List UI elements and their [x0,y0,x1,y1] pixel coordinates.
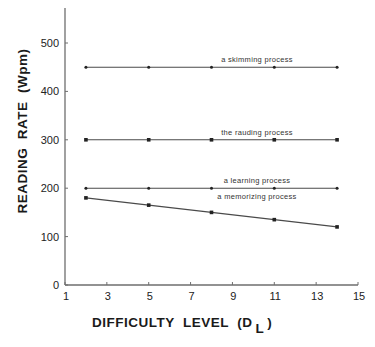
x-tick-label: 5 [147,290,153,302]
square-marker-icon [335,225,339,229]
dot-marker-icon [210,66,213,69]
dot-marker-icon [147,66,150,69]
series-the-rauding-process: the rauding process [84,128,339,142]
series-a-skimming-process: a skimming process [84,55,338,68]
x-axis: 13579111315 [63,282,365,302]
square-marker-icon [147,138,151,142]
dot-marker-icon [273,187,276,190]
chart-canvas: 0100200300400500 13579111315 a skimming … [0,0,375,347]
dot-marker-icon [84,187,87,190]
reading-rate-chart: 0100200300400500 13579111315 a skimming … [0,0,375,347]
x-tick-label: 9 [230,290,236,302]
dot-marker-icon [84,66,87,69]
y-tick-label: 300 [41,134,59,146]
y-tick-label: 100 [41,231,59,243]
dot-marker-icon [210,187,213,190]
y-axis: 0100200300400500 [41,8,68,291]
square-marker-icon [272,138,276,142]
y-tick-label: 400 [41,85,59,97]
y-tick-label: 0 [53,279,59,291]
x-tick-label: 15 [353,290,365,302]
square-marker-icon [272,218,276,222]
square-marker-icon [210,211,214,215]
series-a-learning-process: a learning process [84,176,338,190]
x-tick-label: 13 [311,290,323,302]
square-marker-icon [210,138,214,142]
x-tick-label: 11 [270,290,281,302]
x-tick-label: 7 [189,290,195,302]
dot-marker-icon [336,66,339,69]
y-axis-title: READING RATE (Wpm) [15,49,30,214]
x-axis-title: DIFFICULTY LEVEL (DL) [92,315,272,336]
square-marker-icon [84,196,88,200]
series-label: a learning process [224,176,291,185]
x-tick-label: 3 [105,290,111,302]
square-marker-icon [335,138,339,142]
square-marker-icon [84,138,88,142]
dot-marker-icon [147,187,150,190]
series-layer: a skimming processthe rauding processa l… [84,55,339,229]
y-tick-label: 200 [41,182,59,194]
dot-marker-icon [273,66,276,69]
dot-marker-icon [336,187,339,190]
series-label: a skimming process [221,55,293,64]
y-tick-label: 500 [41,37,59,49]
svg-text:DIFFICULTY LEVEL (DL): DIFFICULTY LEVEL (DL) [92,315,272,336]
series-label: the rauding process [221,128,293,137]
series-a-memorizing-process: a memorizing process [84,192,339,228]
x-tick-label: 1 [63,290,69,302]
square-marker-icon [147,203,151,207]
series-label: a memorizing process [217,192,296,201]
